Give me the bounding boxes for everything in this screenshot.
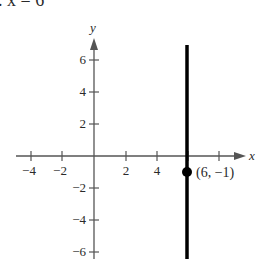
svg-text:−4: −4: [72, 212, 86, 227]
y-axis-arrow-icon: [90, 38, 98, 50]
svg-text:−6: −6: [72, 244, 86, 259]
x-axis-arrow-icon: [234, 152, 246, 160]
svg-text:−2: −2: [53, 163, 67, 178]
point-label: (6, −1): [196, 165, 235, 181]
x-tick-labels: −4 −2 2 4: [22, 163, 161, 178]
svg-text:6: 6: [80, 52, 87, 67]
x-axis-label: x: [248, 148, 255, 163]
svg-text:4: 4: [154, 163, 161, 178]
y-axis-label: y: [88, 20, 96, 35]
point-marker: [182, 167, 192, 177]
equation-title: . x = 6: [0, 0, 44, 10]
svg-text:−4: −4: [22, 163, 36, 178]
graph: . x = 6 x y −4 −2 2 4 −6 −4 −2 2 4 6: [0, 0, 256, 259]
svg-text:4: 4: [80, 84, 87, 99]
svg-text:−2: −2: [72, 180, 86, 195]
svg-text:2: 2: [80, 116, 87, 131]
svg-text:2: 2: [123, 163, 130, 178]
